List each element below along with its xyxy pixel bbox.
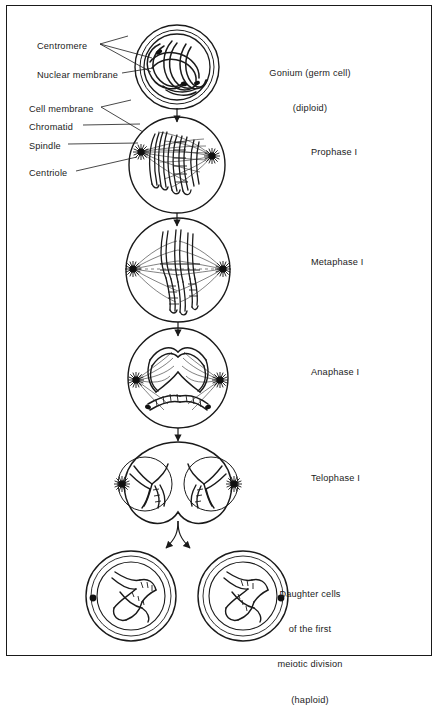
cell-telophase-1 bbox=[114, 442, 242, 523]
cell-metaphase-1 bbox=[125, 218, 231, 322]
centriole-left bbox=[133, 144, 149, 160]
cell-gonium bbox=[135, 25, 219, 109]
centriole-right bbox=[212, 372, 228, 388]
daughter-cell-left bbox=[86, 551, 176, 641]
stage-label-gonium-line-1: Gonium (germ cell) bbox=[236, 68, 384, 80]
stage-label-gonium: Gonium (germ cell) (diploid) bbox=[236, 44, 384, 138]
daughter-cells-line-4: (haploid) bbox=[236, 695, 384, 707]
centriole-left bbox=[128, 372, 144, 388]
stage-label-metaphase-1: Metaphase I bbox=[311, 257, 364, 269]
label-centriole: Centriole bbox=[29, 168, 67, 180]
stage-label-telophase-1: Telophase I bbox=[311, 473, 360, 485]
stage-label-gonium-line-2: (diploid) bbox=[236, 103, 384, 115]
label-chromatid: Chromatid bbox=[29, 122, 73, 134]
label-cell-membrane: Cell membrane bbox=[29, 104, 94, 116]
cell-anaphase-1 bbox=[128, 328, 228, 428]
centriole-right bbox=[204, 148, 220, 164]
connector-telophase-to-daughters bbox=[166, 521, 190, 548]
chromosomes-right bbox=[188, 464, 226, 508]
label-centromere: Centromere bbox=[37, 41, 87, 53]
centriole-right bbox=[215, 261, 231, 277]
stage-label-daughter-cells: Daughter cells of the first meiotic divi… bbox=[236, 565, 384, 709]
spindle-fibers bbox=[141, 132, 212, 187]
label-spindle: Spindle bbox=[29, 141, 61, 153]
daughter-cells-line-1: Daughter cells bbox=[236, 589, 384, 601]
chromosomes bbox=[161, 230, 198, 315]
centriole-dot bbox=[90, 595, 97, 602]
label-nuclear-membrane: Nuclear membrane bbox=[37, 70, 118, 82]
stage-label-prophase-1: Prophase I bbox=[311, 147, 357, 159]
cell-prophase-1 bbox=[129, 117, 225, 213]
chromosomes-left bbox=[130, 464, 168, 508]
chromosomes bbox=[150, 132, 199, 195]
centriole-left bbox=[114, 476, 130, 492]
daughter-cells-line-3: meiotic division bbox=[236, 659, 384, 671]
daughter-cells-line-2: of the first bbox=[236, 624, 384, 636]
centriole-right bbox=[226, 476, 242, 492]
centriole-left bbox=[125, 261, 141, 277]
spindle-fibers bbox=[133, 241, 223, 302]
stage-label-anaphase-1: Anaphase I bbox=[311, 367, 359, 379]
